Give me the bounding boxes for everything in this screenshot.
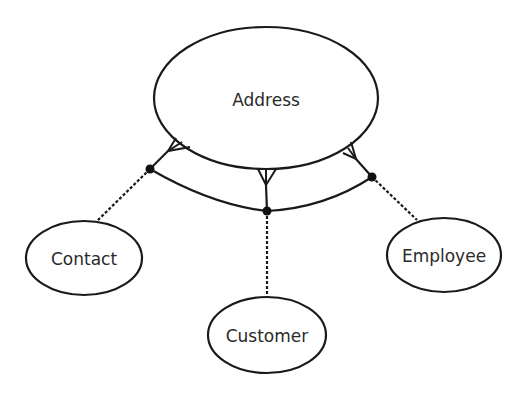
entity-label-contact: Contact bbox=[51, 249, 117, 269]
crows-foot-icon-customer bbox=[258, 169, 276, 185]
junction-dot-employee bbox=[368, 173, 377, 182]
dashed-line-contact bbox=[97, 169, 150, 221]
entity-employee[interactable]: Employee bbox=[387, 218, 501, 292]
entity-contact[interactable]: Contact bbox=[26, 221, 142, 295]
er-diagram: Address Contact Customer Employee bbox=[0, 0, 522, 399]
entity-label-employee: Employee bbox=[402, 246, 486, 266]
junction-dot-contact bbox=[146, 165, 155, 174]
entity-customer[interactable]: Customer bbox=[208, 297, 326, 373]
junction-dot-customer bbox=[263, 207, 272, 216]
dashed-line-employee bbox=[372, 177, 417, 220]
entity-label-address: Address bbox=[232, 90, 300, 110]
entity-label-customer: Customer bbox=[226, 326, 309, 346]
